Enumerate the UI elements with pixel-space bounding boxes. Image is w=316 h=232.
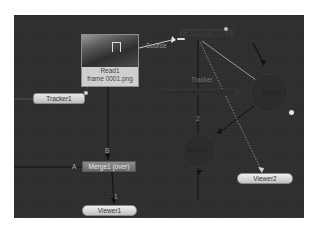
tracker-input-label: Tracker <box>191 76 213 83</box>
read-node-title: Read1 <box>82 67 138 75</box>
viewer2-node[interactable]: Viewer2 <box>237 173 293 184</box>
camera-pointcloud-node[interactable]: CameraTrackerPointCloud1 <box>160 89 240 95</box>
camera-tracker-input-marker <box>177 38 185 40</box>
merge-input-b-label: B <box>105 147 109 154</box>
cube-indicator <box>289 110 294 115</box>
tracker-node-label: Tracker1 <box>46 95 71 102</box>
viewer2-node-label: Viewer2 <box>253 175 276 182</box>
merge-node-label: Merge1 (over) <box>89 163 130 170</box>
read-thumbnail <box>82 35 138 67</box>
camera-tracker-indicator <box>224 27 228 31</box>
tracker-indicator <box>84 91 88 95</box>
viewer1-node-label: Viewer1 <box>98 207 121 214</box>
cube-node-label: Cube1 <box>262 89 281 96</box>
tracker-node[interactable]: Tracker1 <box>33 93 85 104</box>
viewer1-node[interactable]: Viewer1 <box>82 205 137 216</box>
scene-node-label: Scene1 <box>186 146 208 153</box>
read-node[interactable]: Read1 frame 0001.png <box>81 34 139 87</box>
connection-wires <box>0 0 316 232</box>
viewer1-input-number: 1 <box>114 193 118 200</box>
read-node-filename: frame 0001.png <box>82 75 138 83</box>
merge-input-a-label: A <box>72 163 76 170</box>
source-input-label: Source <box>146 42 167 49</box>
scene-input-number: 2 <box>196 115 200 122</box>
merge-node[interactable]: Merge1 (over) <box>82 161 136 172</box>
